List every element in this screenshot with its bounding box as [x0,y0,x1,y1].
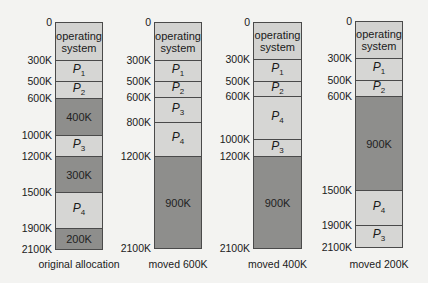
address-label: 300K [302,52,352,64]
process-label: P2 [373,80,385,97]
process-label: P1 [373,61,385,78]
process-block-p2: P2 [355,80,403,97]
address-label: 600K [302,90,352,102]
process-block-p1: P1 [355,58,403,81]
process-label: P4 [373,200,385,217]
address-label: 1500K [302,184,352,196]
address-label: 2100K [302,241,352,253]
address-label: 0 [302,15,352,27]
column-caption: moved 200K [324,258,428,270]
address-label: 1900K [302,219,352,231]
process-block-p3: P3 [355,225,403,248]
process-block-p4: P4 [355,190,403,226]
hole-size-label: 900K [366,138,392,150]
operating-system-block: operating system [355,21,403,59]
free-hole-block: 900K [355,96,403,191]
memory-column-4: operating systemP1P2900KP4P30300K500K600… [0,0,428,283]
os-label: operating system [356,28,402,52]
process-label: P3 [373,228,385,245]
address-label: 500K [302,74,352,86]
